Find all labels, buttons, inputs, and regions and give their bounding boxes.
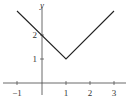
y-tick-label: 1 [33, 54, 38, 64]
x-tick-label: −1 [12, 88, 22, 98]
x-tick-label: 3 [112, 88, 117, 98]
y-axis-label: y [39, 0, 44, 10]
x-tick-label: 1 [64, 88, 69, 98]
x-tick-label: 2 [88, 88, 93, 98]
function-graph: −1 1 2 3 1 2 y [0, 0, 127, 100]
y-tick-label: 2 [33, 30, 38, 40]
